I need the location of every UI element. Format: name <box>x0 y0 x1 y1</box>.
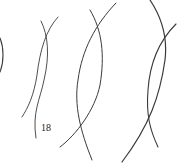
strand-3b <box>147 24 176 147</box>
strand-edge <box>0 38 3 72</box>
strands-drawing <box>0 0 188 163</box>
strand-1b <box>22 17 58 117</box>
figure-canvas: 18 <box>0 0 188 163</box>
figure-label: 18 <box>41 122 51 133</box>
strand-2b <box>77 3 116 160</box>
strand-3a <box>122 0 166 162</box>
